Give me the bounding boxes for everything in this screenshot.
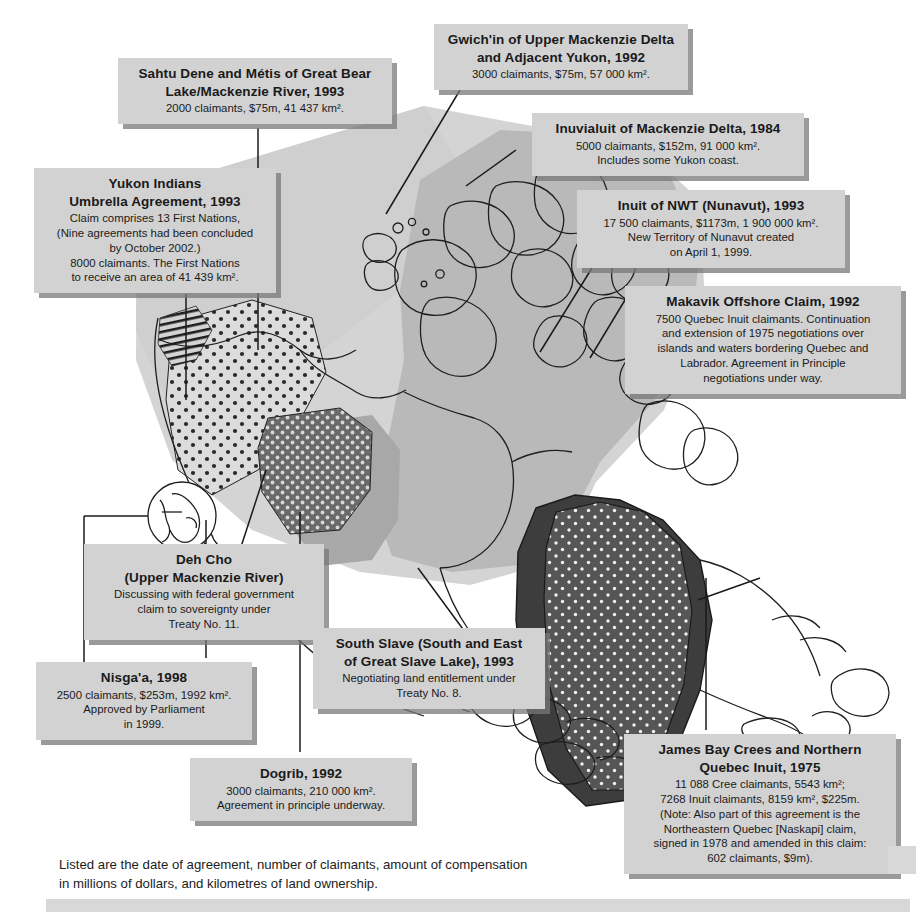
callout-nunavut-title-1: Inuit of NWT (Nunavut), 1993 [586, 197, 836, 215]
callout-southslave-body-1: Negotiating land entitlement under [322, 671, 536, 686]
callout-jamesbay-title-1: James Bay Crees and Northern [633, 741, 887, 759]
callout-nisgaa-body-1: 2500 claimants, $253m, 1992 km². [45, 688, 243, 703]
callout-makavik-body-3: islands and waters bordering Quebec and [634, 341, 892, 356]
callout-nisgaa-body-3: in 1999. [45, 717, 243, 732]
callout-gwichin-title-2: and Adjacent Yukon, 1992 [443, 49, 679, 67]
callout-dehcho-title-2: (Upper Mackenzie River) [93, 569, 315, 587]
callout-dogrib-body-2: Agreement in principle underway. [199, 798, 403, 813]
callout-makavik-body-4: Labrador. Agreement in Principle [634, 356, 892, 371]
callout-dogrib[interactable]: Dogrib, 1992 3000 claimants, 210 000 km²… [190, 758, 412, 821]
callout-southslave-body-2: Treaty No. 8. [322, 686, 536, 701]
bottom-bar [46, 899, 910, 912]
callout-dehcho-body-1: Discussing with federal government [93, 587, 315, 602]
callout-makavik[interactable]: Makavik Offshore Claim, 1992 7500 Quebec… [625, 286, 901, 394]
callout-inuvialuit-title-1: Inuvialuit of Mackenzie Delta, 1984 [541, 120, 795, 138]
callout-dehcho[interactable]: Deh Cho (Upper Mackenzie River) Discussi… [84, 544, 324, 640]
callout-jamesbay-body-3: (Note: Also part of this agreement is th… [633, 807, 887, 822]
callout-yukon-body-4: 8000 claimants. The First Nations [43, 256, 267, 271]
callout-sahtu-body-1: 2000 claimants, $75m, 41 437 km². [127, 101, 383, 116]
callout-jamesbay-body-6: 602 claimants, $9m). [633, 851, 887, 866]
callout-southslave-title-2: of Great Slave Lake), 1993 [322, 653, 536, 671]
callout-nisgaa-body-2: Approved by Parliament [45, 702, 243, 717]
callout-makavik-title-1: Makavik Offshore Claim, 1992 [634, 293, 892, 311]
callout-southslave[interactable]: South Slave (South and East of Great Sla… [313, 628, 545, 709]
leader-makavik-coast [698, 578, 760, 600]
callout-inuvialuit[interactable]: Inuvialuit of Mackenzie Delta, 1984 5000… [532, 113, 804, 176]
callout-nisgaa[interactable]: Nisga'a, 1998 2500 claimants, $253m, 199… [36, 662, 252, 740]
callout-nisgaa-title-1: Nisga'a, 1998 [45, 669, 243, 687]
callout-dehcho-body-2: claim to sovereignty under [93, 602, 315, 617]
callout-dogrib-body-1: 3000 claimants, 210 000 km². [199, 784, 403, 799]
callout-nunavut-body-2: New Territory of Nunavut created [586, 230, 836, 245]
callout-nunavut[interactable]: Inuit of NWT (Nunavut), 1993 17 500 clai… [577, 190, 845, 268]
callout-gwichin-body-1: 3000 claimants, $75m, 57 000 km². [443, 67, 679, 82]
callout-nunavut-body-1: 17 500 claimants, $1173m, 1 900 000 km². [586, 216, 836, 231]
callout-gwichin-title-1: Gwich'in of Upper Mackenzie Delta [443, 31, 679, 49]
callout-makavik-body-5: negotiations under way. [634, 371, 892, 386]
map-caption: Listed are the date of agreement, number… [59, 855, 659, 893]
callout-jamesbay[interactable]: James Bay Crees and Northern Quebec Inui… [624, 734, 896, 874]
callout-yukon-body-3: by October 2002.) [43, 241, 267, 256]
callout-makavik-body-1: 7500 Quebec Inuit claimants. Continuatio… [634, 312, 892, 327]
corner-decoration [888, 846, 916, 874]
caption-line-2: in millions of dollars, and kilometres o… [59, 874, 659, 893]
callout-dehcho-title-1: Deh Cho [93, 551, 315, 569]
caption-line-1: Listed are the date of agreement, number… [59, 855, 659, 874]
callout-inuvialuit-body-1: 5000 claimants, $152m, 91 000 km². [541, 139, 795, 154]
callout-jamesbay-title-2: Quebec Inuit, 1975 [633, 759, 887, 777]
callout-nunavut-body-3: on April 1, 1999. [586, 245, 836, 260]
callout-yukon[interactable]: Yukon Indians Umbrella Agreement, 1993 C… [34, 168, 276, 293]
callout-sahtu-title-1: Sahtu Dene and Métis of Great Bear [127, 65, 383, 83]
callout-yukon-body-1: Claim comprises 13 First Nations, [43, 211, 267, 226]
callout-jamesbay-body-4: Northeastern Quebec [Naskapi] claim, [633, 822, 887, 837]
land-claims-map-page: Gwich'in of Upper Mackenzie Delta and Ad… [0, 0, 916, 912]
callout-sahtu-title-2: Lake/Mackenzie River, 1993 [127, 83, 383, 101]
callout-jamesbay-body-2: 7268 Inuit claimants, 8159 km², $225m. [633, 792, 887, 807]
callout-jamesbay-body-1: 11 088 Cree claimants, 5543 km²; [633, 777, 887, 792]
callout-dehcho-body-3: Treaty No. 11. [93, 617, 315, 632]
callout-yukon-title-1: Yukon Indians [43, 175, 267, 193]
callout-southslave-title-1: South Slave (South and East [322, 635, 536, 653]
callout-inuvialuit-body-2: Includes some Yukon coast. [541, 153, 795, 168]
callout-jamesbay-body-5: signed in 1978 and amended in this claim… [633, 836, 887, 851]
callout-sahtu[interactable]: Sahtu Dene and Métis of Great Bear Lake/… [118, 58, 392, 124]
callout-yukon-body-5: to receive an area of 41 439 km². [43, 270, 267, 285]
callout-yukon-title-2: Umbrella Agreement, 1993 [43, 193, 267, 211]
callout-dogrib-title-1: Dogrib, 1992 [199, 765, 403, 783]
callout-yukon-body-2: (Nine agreements had been concluded [43, 226, 267, 241]
callout-makavik-body-2: and extension of 1975 negotiations over [634, 326, 892, 341]
callout-gwichin[interactable]: Gwich'in of Upper Mackenzie Delta and Ad… [434, 24, 688, 90]
